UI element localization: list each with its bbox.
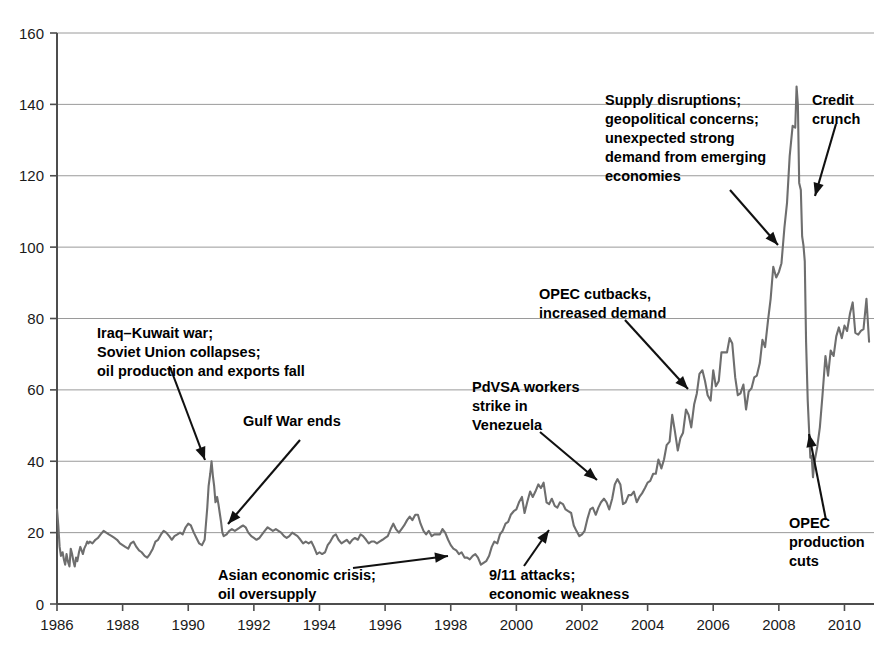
arrow-iraq-kuwait <box>170 367 205 460</box>
annotation-opec-cutbacks-line-1: increased demand <box>539 305 666 321</box>
x-tick-label-1996: 1996 <box>368 616 401 633</box>
arrow-gulf-war-ends <box>228 440 300 524</box>
y-tick-label-80: 80 <box>27 310 44 327</box>
x-tick-label-1992: 1992 <box>237 616 270 633</box>
y-tick-label-0: 0 <box>36 596 44 613</box>
y-tick-label-20: 20 <box>27 524 44 541</box>
annotation-asian-crisis: Asian economic crisis;oil oversupply <box>218 567 376 602</box>
x-tick-label-1994: 1994 <box>303 616 336 633</box>
x-tick-label-2000: 2000 <box>500 616 533 633</box>
y-tick-label-60: 60 <box>27 381 44 398</box>
annotation-pdvsa-strike-line-2: Venezuela <box>472 417 543 433</box>
annotation-opec-cutbacks-line-0: OPEC cutbacks, <box>539 286 651 302</box>
annotation-opec-cutbacks: OPEC cutbacks,increased demand <box>539 286 666 321</box>
annotation-pdvsa-strike-line-0: PdVSA workers <box>472 379 579 395</box>
x-tick-label-1988: 1988 <box>106 616 139 633</box>
x-axis-tick-labels: 1986198819901992199419961998200020022004… <box>40 616 861 633</box>
annotation-supply-disruptions-line-0: Supply disruptions; <box>605 92 741 108</box>
arrow-credit-crunch-head <box>814 182 824 196</box>
x-tick-label-1998: 1998 <box>434 616 467 633</box>
annotation-opec-production-cuts: OPECproductioncuts <box>789 515 865 569</box>
arrow-asian-crisis-head <box>434 552 448 562</box>
annotation-opec-production-cuts-line-2: cuts <box>789 553 819 569</box>
x-tick-label-2010: 2010 <box>828 616 861 633</box>
annotation-opec-production-cuts-line-0: OPEC <box>789 515 831 531</box>
annotation-credit-crunch-line-1: crunch <box>812 111 860 127</box>
chart-figure: 020406080100120140160 198619881990199219… <box>0 0 892 655</box>
annotation-iraq-kuwait-line-2: oil production and exports fall <box>97 363 305 379</box>
oil-price-line-chart: 020406080100120140160 198619881990199219… <box>0 0 892 655</box>
y-tick-label-160: 160 <box>19 25 44 42</box>
y-tick-label-140: 140 <box>19 96 44 113</box>
annotation-supply-disruptions-line-2: unexpected strong <box>605 130 735 146</box>
annotation-supply-disruptions-line-4: economies <box>605 168 681 184</box>
annotation-pdvsa-strike: PdVSA workersstrike inVenezuela <box>472 379 579 433</box>
annotation-gulf-war-ends-line-0: Gulf War ends <box>243 413 341 429</box>
annotation-iraq-kuwait: Iraq–Kuwait war;Soviet Union collapses;o… <box>97 325 305 379</box>
gridlines-group <box>57 33 874 533</box>
x-tick-label-2008: 2008 <box>762 616 795 633</box>
y-tick-label-100: 100 <box>19 239 44 256</box>
x-tick-label-2002: 2002 <box>565 616 598 633</box>
arrow-opec-production-cuts-head <box>806 434 816 448</box>
y-tick-label-40: 40 <box>27 453 44 470</box>
x-tick-label-1990: 1990 <box>172 616 205 633</box>
annotations-group: Iraq–Kuwait war;Soviet Union collapses;o… <box>97 92 865 602</box>
x-tick-label-2006: 2006 <box>697 616 730 633</box>
annotation-nine-eleven: 9/11 attacks;economic weakness <box>489 567 629 602</box>
annotation-supply-disruptions: Supply disruptions;geopolitical concerns… <box>605 92 766 184</box>
annotation-asian-crisis-line-0: Asian economic crisis; <box>218 567 376 583</box>
annotation-asian-crisis-line-1: oil oversupply <box>218 586 316 602</box>
annotation-gulf-war-ends: Gulf War ends <box>243 413 341 429</box>
arrow-opec-cutbacks <box>625 320 688 389</box>
annotation-pdvsa-strike-line-1: strike in <box>472 398 528 414</box>
annotation-iraq-kuwait-line-1: Soviet Union collapses; <box>97 344 261 360</box>
x-tick-label-1986: 1986 <box>40 616 73 633</box>
annotation-iraq-kuwait-line-0: Iraq–Kuwait war; <box>97 325 213 341</box>
y-axis-tick-labels: 020406080100120140160 <box>19 25 44 613</box>
x-tick-label-2004: 2004 <box>631 616 664 633</box>
annotation-arrows-group <box>170 124 836 568</box>
annotation-credit-crunch: Creditcrunch <box>812 92 860 127</box>
annotation-supply-disruptions-line-1: geopolitical concerns; <box>605 111 759 127</box>
annotation-nine-eleven-line-1: economic weakness <box>489 586 629 602</box>
y-tick-label-120: 120 <box>19 167 44 184</box>
annotation-opec-production-cuts-line-1: production <box>789 534 865 550</box>
annotation-nine-eleven-line-0: 9/11 attacks; <box>489 567 575 583</box>
arrow-iraq-kuwait-head <box>196 446 206 460</box>
arrow-nine-eleven-head <box>537 530 549 544</box>
annotation-credit-crunch-line-0: Credit <box>812 92 854 108</box>
annotation-supply-disruptions-line-3: demand from emerging <box>605 149 766 165</box>
